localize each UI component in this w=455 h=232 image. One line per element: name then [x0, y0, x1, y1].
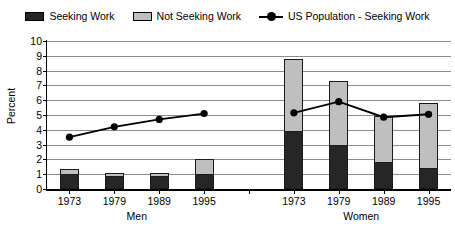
legend-item-seeking-work: Seeking Work [25, 11, 114, 22]
x-axis-tick-label: 1995 [181, 195, 227, 207]
y-axis-tick-label: 10 [26, 35, 42, 47]
y-axis-tick-mark [43, 159, 47, 160]
y-axis-tick-mark [43, 100, 47, 101]
x-axis-tick-label: 1973 [46, 195, 92, 207]
y-axis-tick-label: 3 [26, 139, 42, 151]
line-series-marker [425, 111, 432, 118]
legend-label-us-population: US Population - Seeking Work [288, 11, 430, 22]
x-axis-tick-mark [339, 189, 340, 194]
y-axis-tick-label: 1 [26, 168, 42, 180]
line-series-marker [380, 114, 387, 121]
y-axis-title: Percent [5, 71, 17, 141]
x-axis-tick-label: 1979 [91, 195, 137, 207]
line-series-marker [111, 123, 118, 130]
line-series-path [69, 114, 204, 138]
chart-container: Seeking Work Not Seeking Work US Populat… [0, 0, 455, 232]
y-axis-tick-label: 7 [26, 79, 42, 91]
line-series-marker [290, 109, 297, 116]
y-axis-tick-mark [43, 71, 47, 72]
y-axis-tick-mark [43, 56, 47, 57]
x-axis-tick-mark [114, 189, 115, 194]
line-series-marker [66, 134, 73, 141]
line-series-marker [201, 110, 208, 117]
x-axis-tick-mark [429, 189, 430, 194]
x-axis-tick-label: 1979 [316, 195, 362, 207]
y-axis-tick-mark [43, 130, 47, 131]
x-axis-tick-mark [159, 189, 160, 194]
y-axis-tick-mark [43, 85, 47, 86]
y-axis-tick-mark [43, 41, 47, 42]
x-axis-tick-label: 1989 [136, 195, 182, 207]
legend-label-seeking-work: Seeking Work [49, 11, 114, 22]
y-axis-tick-labels: 012345678910 [24, 41, 42, 189]
legend-swatch-not-seeking-work [133, 12, 152, 21]
x-axis-tick-label: 1995 [406, 195, 452, 207]
legend-item-us-population: US Population - Seeking Work [259, 11, 430, 22]
x-axis-tick-mark [204, 189, 205, 194]
y-axis-tick-label: 8 [26, 65, 42, 77]
y-axis-tick-label: 6 [26, 94, 42, 106]
y-axis-tick-label: 2 [26, 153, 42, 165]
y-axis-tick-mark [43, 115, 47, 116]
chart-legend: Seeking Work Not Seeking Work US Populat… [0, 6, 455, 26]
y-axis-tick-mark [43, 189, 47, 190]
line-series-layer [47, 41, 451, 189]
y-axis-tick-mark [43, 145, 47, 146]
line-series-marker [156, 116, 163, 123]
y-axis-tick-label: 4 [26, 124, 42, 136]
x-axis-group-label: Women [316, 210, 406, 222]
x-axis-tick-label: 1973 [271, 195, 317, 207]
x-axis-tick-mark [249, 189, 250, 194]
y-axis-tick-label: 5 [26, 109, 42, 121]
x-axis-tick-mark [384, 189, 385, 194]
line-series-path [294, 102, 429, 118]
legend-swatch-seeking-work [25, 12, 44, 21]
y-axis-tick-label: 0 [26, 183, 42, 195]
legend-item-not-seeking-work: Not Seeking Work [133, 11, 241, 22]
x-axis-tick-mark [294, 189, 295, 194]
legend-label-not-seeking-work: Not Seeking Work [157, 11, 241, 22]
y-axis-tick-mark [43, 174, 47, 175]
x-axis-tick-label: 1989 [361, 195, 407, 207]
y-axis-tick-label: 9 [26, 50, 42, 62]
legend-line-dot-icon [259, 12, 283, 21]
x-axis-group-label: Men [92, 210, 182, 222]
line-series-marker [335, 98, 342, 105]
x-axis-tick-mark [69, 189, 70, 194]
